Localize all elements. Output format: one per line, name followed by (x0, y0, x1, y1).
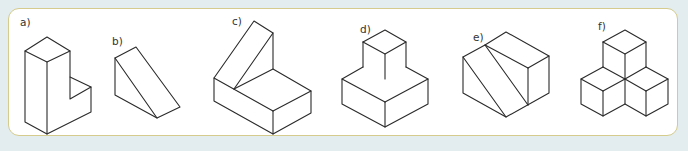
figure-f-label: f) (598, 20, 606, 32)
figure-b: b) (112, 35, 180, 118)
figure-a: a) (20, 16, 91, 134)
figure-b-label: b) (112, 35, 123, 47)
figure-e: e) (463, 31, 549, 117)
figure-d: d) (342, 23, 428, 127)
figure-c: c) (214, 15, 311, 134)
figure-c-label: c) (232, 15, 242, 27)
figure-e-label: e) (473, 31, 484, 43)
isometric-figures: a) b) c) d) e) (0, 0, 688, 151)
figure-d-label: d) (360, 23, 371, 35)
figure-f: f) (581, 20, 668, 116)
figure-a-label: a) (20, 16, 31, 28)
